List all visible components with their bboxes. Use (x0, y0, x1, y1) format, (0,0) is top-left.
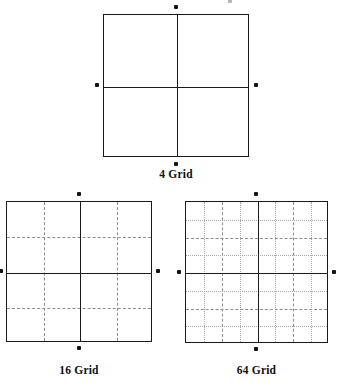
grid-rule-horizontal-dotted (186, 220, 327, 221)
grid-rule-horizontal-dotted (186, 255, 327, 256)
grid-rule-vertical-dashed (293, 202, 294, 342)
grid-rule-horizontal-dashed (186, 238, 327, 239)
edge-midpoint-dot-bottom (254, 347, 258, 351)
grid-rule-horizontal-dotted (186, 291, 327, 292)
edge-midpoint-dot-top (254, 192, 258, 196)
grid-rule-horizontal-solid (186, 273, 327, 274)
grid-rule-vertical-dashed (222, 202, 223, 342)
grid-rule-vertical-dotted (240, 202, 241, 342)
figure-root: 4 Grid16 Grid64 Grid (0, 0, 339, 387)
grid-square-64 (185, 201, 328, 343)
clipped-dot-top-icon (228, 0, 232, 3)
grid-rule-vertical-dotted (204, 202, 205, 342)
edge-midpoint-dot-left (177, 270, 181, 274)
grid-rule-vertical-dotted (275, 202, 276, 342)
grid-rule-vertical-solid (258, 202, 259, 342)
grid-figure-64: 64 Grid (0, 0, 339, 387)
grid-rule-vertical-dotted (311, 202, 312, 342)
edge-midpoint-dot-right (332, 270, 336, 274)
grid-rule-horizontal-dotted (186, 326, 327, 327)
grid-caption-64: 64 Grid (185, 364, 328, 376)
grid-rule-horizontal-dashed (186, 309, 327, 310)
